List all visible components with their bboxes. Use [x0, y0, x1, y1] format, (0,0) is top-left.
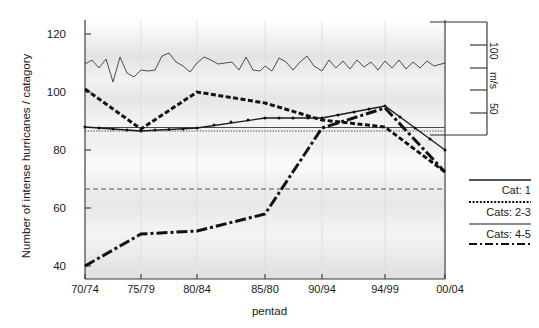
chart-canvas [0, 0, 539, 328]
legend-sample-lines [469, 180, 531, 244]
hurricane-category-chart: Number of intense hurricanes / catagory … [0, 0, 539, 328]
